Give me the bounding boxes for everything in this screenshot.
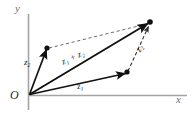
vector-z2: [30, 50, 47, 95]
origin-label: O: [10, 89, 19, 101]
vector-addition-figure: y x O z2 z₁ + z₂ z2 z1: [0, 0, 196, 117]
point-z2-tip: [44, 45, 49, 50]
vector-label-z1-sub: 1: [80, 86, 83, 92]
point-sum-tip: [147, 19, 153, 25]
vector-label-z1: z1: [77, 82, 84, 91]
y-axis-label: y: [15, 3, 20, 14]
vector-label-z2-left-base: z: [24, 57, 28, 67]
x-axis-label: x: [176, 94, 181, 105]
vector-label-z2-left-sub: 2: [28, 62, 31, 68]
vector-label-z2-left: z2: [24, 58, 30, 67]
dashed-side-z1-translated: [49, 24, 147, 48]
vector-z1-plus-z2: [30, 24, 149, 95]
point-z1-tip: [124, 69, 129, 74]
